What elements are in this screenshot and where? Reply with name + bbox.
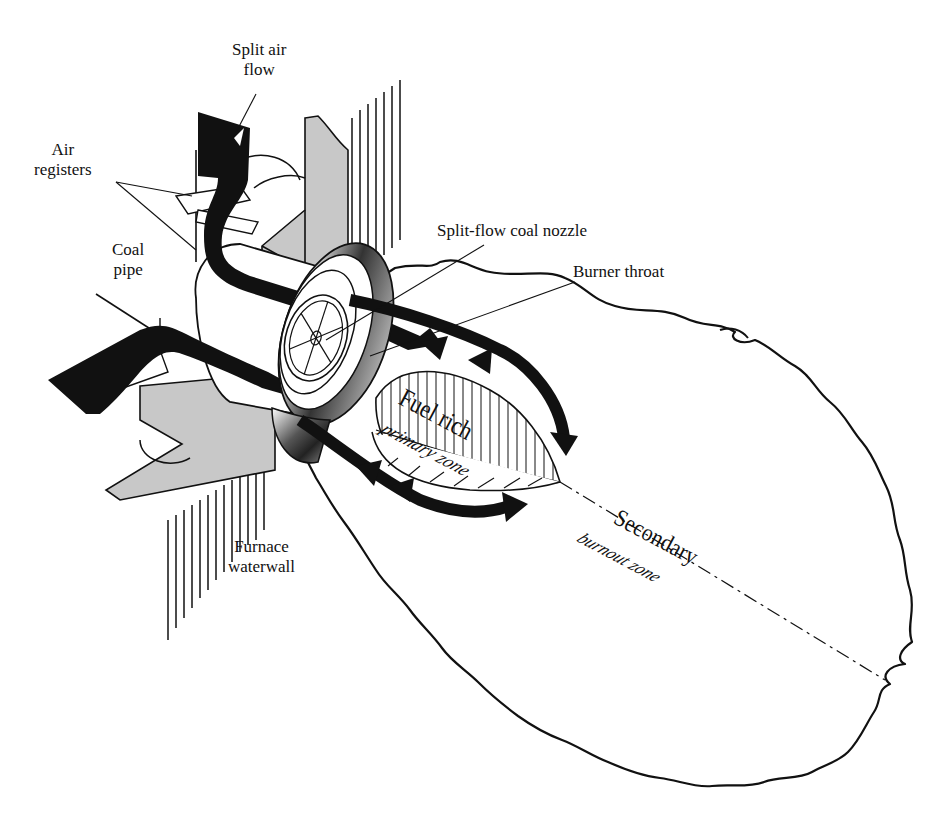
coal-pipe-line: [96, 294, 152, 330]
label-air-registers-line2: registers: [34, 160, 92, 180]
label-furnace-waterwall-line1: Furnace: [228, 537, 295, 557]
burner-diagram: [0, 0, 952, 815]
leader-register-1: [116, 182, 192, 196]
label-coal-pipe-line2: pipe: [112, 260, 144, 280]
label-split-air-flow-line2: flow: [232, 60, 286, 80]
label-coal-pipe: Coal pipe: [112, 240, 144, 280]
label-air-registers: Air registers: [34, 140, 92, 180]
label-split-air-flow-line1: Split air: [232, 40, 286, 60]
label-coal-pipe-line1: Coal: [112, 240, 144, 260]
label-furnace-waterwall-line2: waterwall: [228, 557, 295, 577]
label-split-flow-coal-nozzle: Split-flow coal nozzle: [437, 221, 587, 241]
label-furnace-waterwall: Furnace waterwall: [228, 537, 295, 577]
label-air-registers-line1: Air: [34, 140, 92, 160]
label-burner-throat: Burner throat: [573, 262, 664, 282]
label-split-air-flow: Split air flow: [232, 40, 286, 80]
